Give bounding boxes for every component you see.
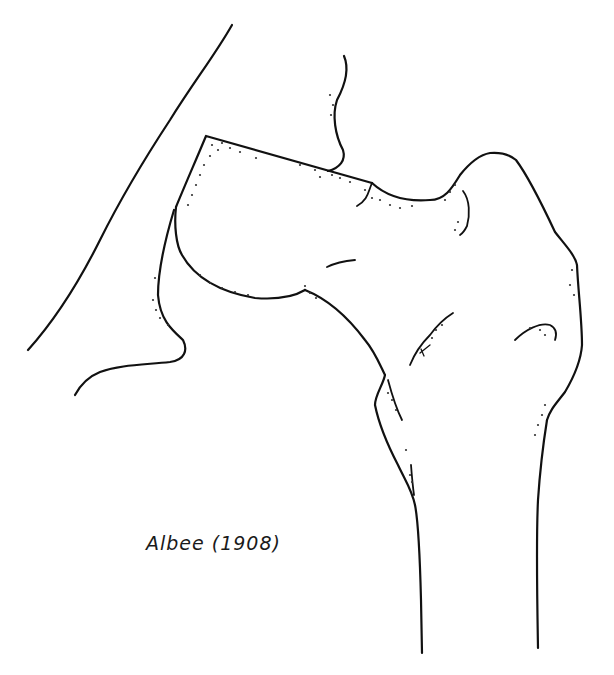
- pelvis-outer-line: [28, 25, 232, 350]
- neck-crease: [357, 183, 372, 206]
- ridge-mark: [420, 345, 430, 356]
- shaft-left-edge: [415, 505, 422, 653]
- trochanteric-fossa: [460, 191, 469, 235]
- shaft-right-edge: [537, 420, 547, 648]
- neck-superior-edge: [372, 153, 582, 420]
- acetabulum-curve: [75, 210, 185, 395]
- figure-caption: Albee (1908): [146, 532, 281, 554]
- lesser-trochanter: [375, 375, 415, 505]
- neck-inferior-edge: [305, 290, 385, 375]
- femur-illustration: [0, 0, 614, 675]
- lesser-trochanter-inner: [388, 380, 402, 420]
- intertrochanteric-ridge: [410, 313, 453, 365]
- trochanter-arc: [515, 324, 556, 340]
- figure-canvas: Albee (1908): [0, 0, 614, 675]
- acetabulum-lip: [328, 56, 347, 171]
- stipple-shading: [152, 94, 575, 483]
- head-fovea-line: [327, 260, 355, 267]
